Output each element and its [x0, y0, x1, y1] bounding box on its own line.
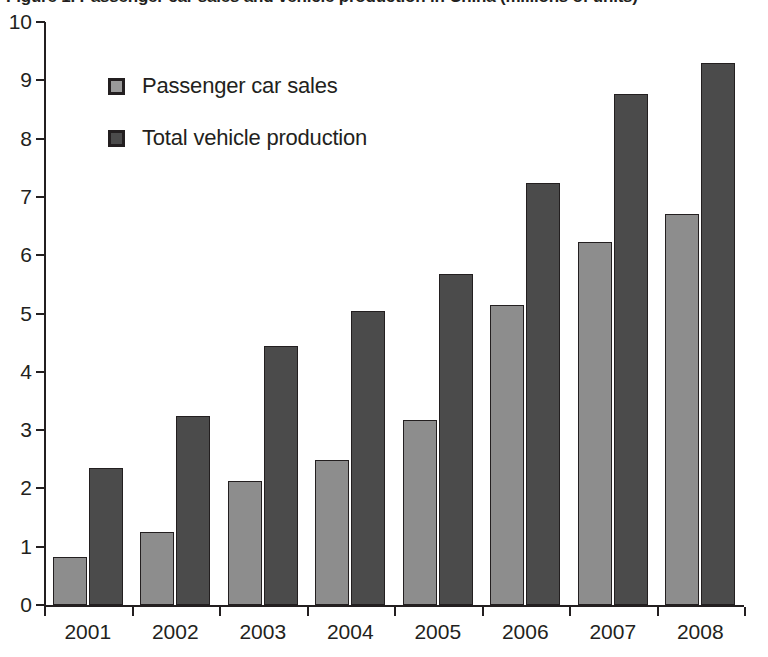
- bar: [403, 420, 437, 605]
- bar: [89, 468, 123, 605]
- y-axis-tick-label: 6: [0, 244, 32, 265]
- y-axis-tick: [36, 487, 45, 489]
- y-axis-tick-label-text: 8: [2, 128, 32, 149]
- x-axis-tick: [657, 607, 659, 616]
- legend-label: Total vehicle production: [142, 126, 367, 150]
- x-axis-tick-label: 2002: [130, 620, 220, 644]
- y-axis-tick-label: 5: [0, 303, 32, 324]
- y-axis-tick-label-text: 10: [2, 11, 32, 32]
- y-axis-tick-label-text: 0: [2, 594, 32, 615]
- x-axis-tick: [132, 607, 134, 616]
- legend-swatch-icon: [108, 78, 125, 95]
- bar: [578, 242, 612, 605]
- y-axis-tick-label-text: 1: [2, 536, 32, 557]
- x-axis-tick: [569, 607, 571, 616]
- bar: [439, 274, 473, 605]
- x-axis-tick-label: 2007: [568, 620, 658, 644]
- bar: [614, 94, 648, 605]
- x-axis-tick: [744, 607, 746, 616]
- bar: [351, 311, 385, 605]
- y-axis-tick: [36, 429, 45, 431]
- x-axis-tick: [44, 607, 46, 616]
- y-axis-tick-label: 1: [0, 536, 32, 557]
- y-axis-tick-label: 3: [0, 419, 32, 440]
- y-axis-tick: [36, 313, 45, 315]
- y-axis-tick-label-text: 2: [2, 477, 32, 498]
- bar-chart: Figure 1. Passenger car sales and vehicl…: [0, 0, 768, 657]
- chart-legend: Passenger car sales Total vehicle produc…: [108, 70, 367, 174]
- y-axis-tick-label: 9: [0, 69, 32, 90]
- x-axis-tick-label: 2001: [43, 620, 133, 644]
- bar: [490, 305, 524, 605]
- y-axis-tick: [36, 138, 45, 140]
- y-axis-tick-label: 2: [0, 477, 32, 498]
- y-axis-tick-label: 10: [0, 11, 32, 32]
- legend-label: Passenger car sales: [142, 74, 338, 98]
- legend-item-passenger-car-sales: Passenger car sales: [108, 70, 367, 102]
- x-axis-tick: [219, 607, 221, 616]
- y-axis-tick-label: 8: [0, 128, 32, 149]
- y-axis-tick: [36, 371, 45, 373]
- y-axis-tick: [36, 254, 45, 256]
- x-axis-tick-label: 2004: [305, 620, 395, 644]
- x-axis-tick-label: 2006: [480, 620, 570, 644]
- chart-title: Figure 1. Passenger car sales and vehicl…: [6, 0, 746, 7]
- y-axis-tick: [36, 604, 45, 606]
- bar: [526, 183, 560, 605]
- x-axis-tick-label: 2003: [218, 620, 308, 644]
- bar: [140, 532, 174, 605]
- x-axis-tick-label: 2008: [655, 620, 745, 644]
- y-axis-tick-label-text: 5: [2, 303, 32, 324]
- y-axis-tick-label: 0: [0, 594, 32, 615]
- y-axis-tick: [36, 21, 45, 23]
- y-axis-tick: [36, 79, 45, 81]
- bar: [264, 346, 298, 605]
- x-axis-tick: [394, 607, 396, 616]
- bar: [315, 460, 349, 605]
- legend-item-total-vehicle-production: Total vehicle production: [108, 122, 367, 154]
- bar: [665, 214, 699, 605]
- bar: [228, 481, 262, 605]
- legend-swatch-icon: [108, 130, 125, 147]
- x-axis-tick: [307, 607, 309, 616]
- y-axis-tick-label-text: 6: [2, 244, 32, 265]
- x-axis-tick: [482, 607, 484, 616]
- x-axis-tick-label: 2005: [393, 620, 483, 644]
- y-axis-tick: [36, 546, 45, 548]
- y-axis-tick-label-text: 4: [2, 361, 32, 382]
- bar: [53, 557, 87, 605]
- bar: [701, 63, 735, 605]
- y-axis-line: [44, 22, 46, 607]
- y-axis-tick-label: 7: [0, 186, 32, 207]
- y-axis-tick-label-text: 7: [2, 186, 32, 207]
- y-axis-tick-label-text: 3: [2, 419, 32, 440]
- y-axis-tick: [36, 196, 45, 198]
- y-axis-tick-label-text: 9: [2, 69, 32, 90]
- bar: [176, 416, 210, 605]
- y-axis-tick-label: 4: [0, 361, 32, 382]
